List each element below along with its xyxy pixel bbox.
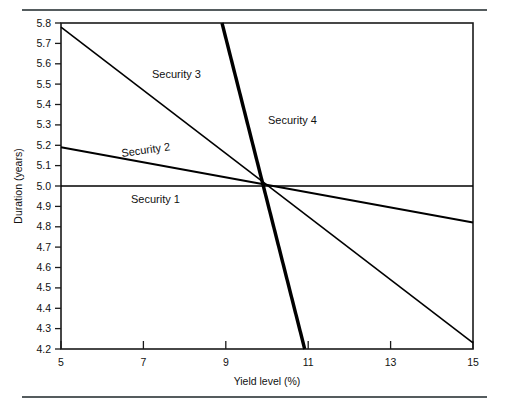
- series-line-security-3: [61, 27, 473, 343]
- x-tick-label: 5: [58, 356, 64, 368]
- y-tick-label: 4.6: [36, 261, 51, 273]
- series-label-security-4: Security 4: [268, 114, 317, 126]
- y-axis-title: Duration (years): [12, 148, 24, 223]
- y-tick-label: 4.5: [36, 281, 51, 293]
- series-label-security-3: Security 3: [152, 68, 201, 80]
- y-tick-label: 5.0: [36, 180, 51, 192]
- y-tick-label: 4.2: [36, 343, 51, 355]
- x-tick-label: 11: [303, 356, 314, 368]
- x-axis-ticks: [61, 341, 473, 349]
- figure-container: 5.8 5.7 5.6 5.5 5.4 5.3 5.2 5.1 5.0 4.9 …: [0, 0, 506, 409]
- y-tick-label: 4.3: [36, 322, 51, 334]
- y-tick-label: 5.8: [36, 17, 51, 29]
- y-tick-label: 5.5: [36, 78, 51, 90]
- y-tick-label: 4.8: [36, 220, 51, 232]
- x-tick-label: 13: [385, 356, 397, 368]
- y-axis-ticks: [55, 23, 61, 349]
- x-tick-label: 15: [467, 356, 479, 368]
- x-axis-tick-labels: 5 7 9 11 13 15: [58, 356, 479, 368]
- x-axis-title: Yield level (%): [234, 375, 301, 387]
- y-tick-label: 5.1: [36, 159, 51, 171]
- y-tick-label: 5.6: [36, 57, 51, 69]
- y-tick-label: 5.3: [36, 118, 51, 130]
- y-tick-label: 4.9: [36, 200, 51, 212]
- x-tick-label: 9: [223, 356, 229, 368]
- series-label-security-1: Security 1: [131, 193, 180, 205]
- y-tick-label: 4.7: [36, 241, 51, 253]
- y-tick-label: 4.4: [36, 302, 51, 314]
- y-axis-tick-labels: 5.8 5.7 5.6 5.5 5.4 5.3 5.2 5.1 5.0 4.9 …: [36, 17, 51, 355]
- series-lines: [61, 23, 473, 349]
- y-tick-label: 5.4: [36, 98, 51, 110]
- duration-yield-chart: 5.8 5.7 5.6 5.5 5.4 5.3 5.2 5.1 5.0 4.9 …: [0, 0, 506, 409]
- y-tick-label: 5.7: [36, 37, 51, 49]
- y-tick-label: 5.2: [36, 139, 51, 151]
- x-tick-label: 7: [140, 356, 146, 368]
- series-label-security-2: Security 2: [121, 140, 171, 159]
